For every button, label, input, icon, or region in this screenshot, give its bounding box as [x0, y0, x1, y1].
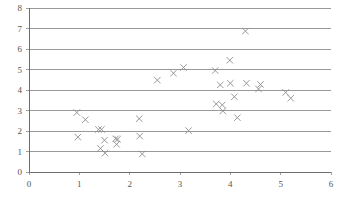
data-point — [288, 95, 294, 101]
x-tick-label-5: 5 — [278, 179, 283, 189]
x-tick-label-4: 4 — [228, 179, 233, 189]
data-point — [227, 57, 233, 63]
y-tick-label-4: 4 — [18, 85, 23, 95]
x-tick-label-6: 6 — [329, 179, 334, 189]
y-axis-tick-labels: 012345678 — [18, 3, 23, 177]
data-point — [243, 80, 249, 86]
data-point — [113, 141, 119, 147]
y-tick-label-1: 1 — [18, 147, 23, 157]
y-tick-label-5: 5 — [18, 65, 23, 75]
data-point — [185, 127, 191, 133]
x-tick-label-1: 1 — [77, 179, 82, 189]
data-point — [212, 67, 218, 73]
data-point — [219, 102, 225, 108]
y-tick-label-0: 0 — [18, 167, 23, 177]
x-tick-label-3: 3 — [178, 179, 183, 189]
y-tick-label-6: 6 — [18, 44, 23, 54]
gridlines — [29, 8, 331, 152]
x-tick-label-0: 0 — [27, 179, 32, 189]
data-point — [137, 133, 143, 139]
data-point — [231, 94, 237, 100]
data-point — [136, 116, 142, 122]
data-point — [242, 28, 248, 34]
data-points — [74, 28, 294, 157]
data-point — [170, 70, 176, 76]
data-point — [154, 77, 160, 83]
data-point — [213, 101, 219, 107]
data-point — [102, 150, 108, 156]
data-point — [227, 80, 233, 86]
y-tick-label-2: 2 — [18, 126, 23, 136]
y-tick-label-3: 3 — [18, 106, 23, 116]
scatter-chart: 012345678 0123456 — [0, 0, 346, 201]
x-tick-label-2: 2 — [127, 179, 132, 189]
y-tick-label-7: 7 — [18, 24, 23, 34]
data-point — [220, 108, 226, 114]
x-axis-tick-labels: 0123456 — [27, 179, 334, 189]
data-point — [217, 82, 223, 88]
y-tick-label-8: 8 — [18, 3, 23, 13]
data-point — [101, 137, 107, 143]
data-point — [75, 134, 81, 140]
plot-area: 012345678 0123456 — [0, 0, 346, 201]
data-point — [234, 114, 240, 120]
data-point — [82, 117, 88, 123]
